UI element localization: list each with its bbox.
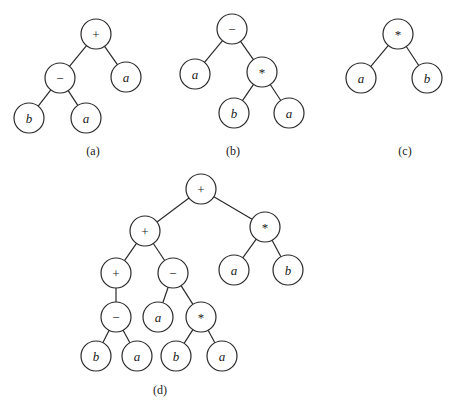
tree-edge (153, 243, 164, 260)
node-label: − (169, 266, 176, 281)
operator-node: − (45, 63, 75, 93)
variable-node: b (273, 255, 303, 285)
tree-edge (181, 286, 193, 305)
node-label: − (228, 22, 235, 37)
node-label: a (219, 349, 226, 364)
operator-node: + (186, 174, 216, 204)
expression-tree-diagram: +−aba−a*ba*ab++*+−ab−a*baba (a)(b)(c)(d) (0, 0, 459, 404)
tree-edge (157, 198, 189, 222)
operator-node: − (158, 258, 188, 288)
tree-edge (123, 330, 130, 343)
operator-node: − (217, 14, 247, 44)
node-label: b (93, 349, 100, 364)
node-label: a (231, 263, 238, 278)
node-label: * (259, 65, 266, 80)
node-label: * (395, 27, 402, 42)
variable-node: a (207, 341, 237, 371)
variable-node: a (346, 63, 376, 93)
tree-caption-a: (a) (86, 144, 99, 158)
node-label: + (197, 182, 204, 197)
variable-node: a (122, 341, 152, 371)
tree-edge (163, 287, 168, 303)
tree-edge (241, 41, 254, 59)
tree-caption-b: (b) (226, 144, 240, 158)
tree-edge (38, 90, 51, 106)
operator-node: * (186, 302, 216, 332)
tree-edge (242, 84, 253, 100)
node-label: a (192, 67, 199, 82)
nodes-layer: +−aba−a*ba*ab++*+−ab−a*baba (14, 14, 442, 371)
node-label: + (141, 224, 148, 239)
node-label: b (26, 111, 33, 126)
operator-node: + (81, 19, 111, 49)
tree-edge (243, 239, 256, 258)
operator-node: + (130, 216, 160, 246)
variable-node: b (219, 98, 249, 128)
operator-node: − (101, 302, 131, 332)
variable-node: b (161, 341, 191, 371)
node-label: b (285, 263, 292, 278)
tree-edge (68, 91, 78, 106)
operator-node: * (383, 19, 413, 49)
tree-edge (69, 46, 86, 67)
tree-edge (406, 47, 418, 66)
tree-edge (205, 41, 223, 63)
operator-node: * (250, 212, 280, 242)
variable-node: a (111, 62, 141, 92)
node-label: a (358, 71, 365, 86)
tree-b-nodes: −a*ba (180, 14, 304, 128)
variable-node: b (81, 341, 111, 371)
node-label: + (92, 27, 99, 42)
node-label: * (198, 310, 205, 325)
tree-edge (214, 197, 252, 220)
node-label: a (123, 70, 130, 85)
node-label: b (231, 106, 238, 121)
operator-node: * (247, 57, 277, 87)
tree-c-nodes: *ab (346, 19, 442, 93)
variable-node: a (274, 98, 304, 128)
node-label: b (424, 71, 431, 86)
tree-caption-c: (c) (398, 144, 411, 158)
node-label: a (286, 106, 293, 121)
tree-edge (270, 85, 281, 101)
tree-a-nodes: +−aba (14, 19, 141, 133)
operator-node: + (101, 258, 131, 288)
node-label: a (83, 111, 90, 126)
node-label: a (134, 349, 141, 364)
node-label: + (112, 266, 119, 281)
tree-edge (184, 330, 193, 344)
variable-node: a (143, 302, 173, 332)
node-label: − (112, 310, 119, 325)
tree-edge (371, 45, 389, 66)
tree-caption-d: (d) (153, 383, 167, 397)
variable-node: a (180, 59, 210, 89)
variable-node: b (412, 63, 442, 93)
tree-edge (208, 330, 215, 343)
node-label: b (173, 349, 180, 364)
tree-edge (103, 330, 109, 342)
tree-edge (272, 240, 281, 257)
variable-node: a (219, 255, 249, 285)
tree-d-nodes: ++*+−ab−a*baba (81, 174, 303, 371)
node-label: a (155, 310, 162, 325)
node-label: − (56, 71, 63, 86)
variable-node: a (71, 103, 101, 133)
tree-edge (125, 243, 137, 260)
tree-edge (105, 46, 118, 64)
node-label: * (262, 220, 269, 235)
variable-node: b (14, 103, 44, 133)
